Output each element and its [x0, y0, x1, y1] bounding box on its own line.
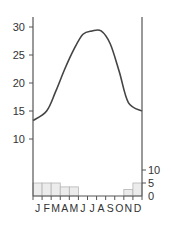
right-ticks: 10 5 0 — [142, 164, 160, 202]
month-label: J — [89, 202, 94, 214]
precipitation-bar — [60, 187, 69, 196]
month-label: A — [61, 202, 68, 214]
month-label: O — [115, 202, 123, 214]
month-label: M — [70, 202, 79, 214]
precipitation-bar — [42, 183, 51, 196]
month-label: M — [51, 202, 60, 214]
precipitation-bars — [33, 183, 142, 196]
left-tick-label: 25 — [13, 49, 25, 61]
right-tick-label: 5 — [148, 177, 154, 189]
precipitation-bar — [124, 190, 133, 197]
left-tick-label: 30 — [13, 21, 25, 33]
month-label: F — [43, 202, 49, 214]
left-tick-label: 15 — [13, 105, 25, 117]
month-label: S — [107, 202, 114, 214]
precipitation-bar — [51, 183, 60, 196]
month-label: N — [125, 202, 133, 214]
month-labels: JFMAMJJASOND — [35, 202, 142, 214]
month-label: J — [35, 202, 40, 214]
temperature-line — [33, 30, 142, 121]
precipitation-bar — [69, 187, 78, 196]
month-ticks — [33, 196, 142, 200]
precipitation-bar — [33, 183, 42, 196]
left-tick-label: 20 — [13, 77, 25, 89]
right-tick-label: 0 — [148, 190, 154, 202]
right-tick-label: 10 — [148, 164, 160, 176]
month-label: J — [80, 202, 85, 214]
left-ticks: 30 25 20 15 10 — [13, 21, 33, 145]
climate-chart: 30 25 20 15 10 10 5 0 JFMAMJJASOND — [0, 0, 171, 228]
month-label: D — [134, 202, 142, 214]
month-label: A — [98, 202, 105, 214]
left-tick-label: 10 — [13, 133, 25, 145]
precipitation-bar — [133, 183, 142, 196]
